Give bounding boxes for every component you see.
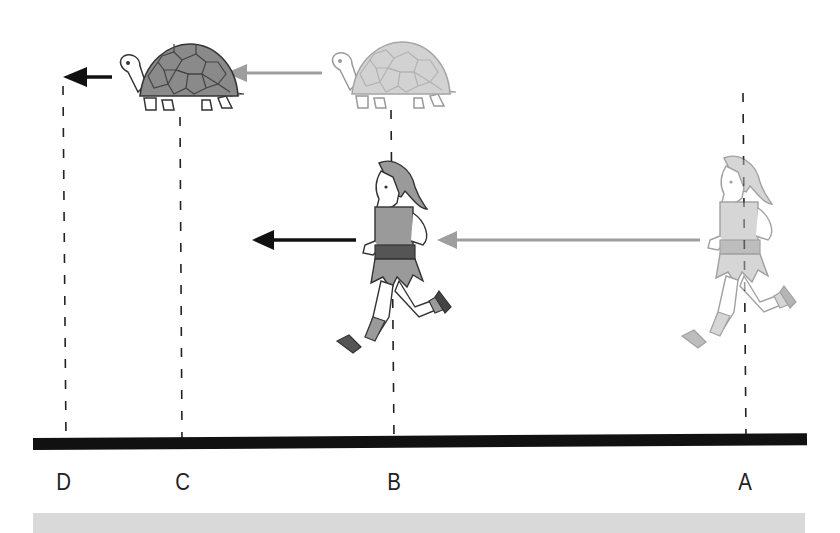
- runner-arrow-A-to-B: [437, 231, 700, 249]
- diagram-canvas: D C B A: [0, 0, 840, 533]
- tortoise-arrow-B-to-C: [226, 64, 322, 82]
- runner-current: [337, 161, 451, 353]
- position-label-A: A: [738, 468, 752, 496]
- guide-line-C: [180, 117, 182, 440]
- tortoise-current: [121, 44, 244, 110]
- tortoise-previous: [333, 42, 456, 108]
- guide-line-D: [63, 86, 66, 440]
- diagram-drawing: [0, 0, 840, 533]
- position-label-D: D: [56, 468, 71, 496]
- position-label-B: B: [387, 468, 401, 496]
- position-label-C: C: [175, 468, 190, 496]
- bottom-band: [33, 513, 805, 533]
- runner-previous: [682, 156, 796, 348]
- runner-arrow-ahead: [252, 230, 356, 250]
- tortoise-arrow-to-D: [63, 67, 112, 87]
